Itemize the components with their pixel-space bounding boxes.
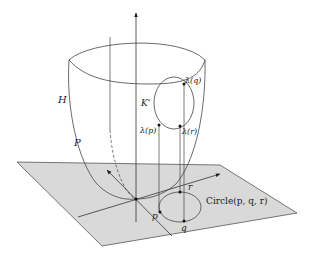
label-p: p — [152, 211, 158, 221]
label-H: H — [57, 94, 67, 105]
label-circle: Circle(p, q, r) — [206, 196, 268, 206]
point-lambda-p — [158, 124, 161, 127]
label-q: q — [181, 223, 187, 233]
label-lambda-q: λ(q) — [184, 76, 201, 85]
point-r — [179, 191, 182, 194]
label-K: K' — [140, 98, 150, 108]
label-r: r — [188, 182, 193, 192]
label-lambda-r: λ(r) — [181, 127, 197, 136]
origin-point — [134, 197, 137, 200]
lifting-diagram: H P K' λ(q) λ(p) λ(r) r p q Circle(p, q,… — [0, 0, 314, 257]
point-p — [159, 211, 162, 214]
label-P: P — [73, 137, 81, 148]
label-lambda-p: λ(p) — [139, 126, 156, 135]
